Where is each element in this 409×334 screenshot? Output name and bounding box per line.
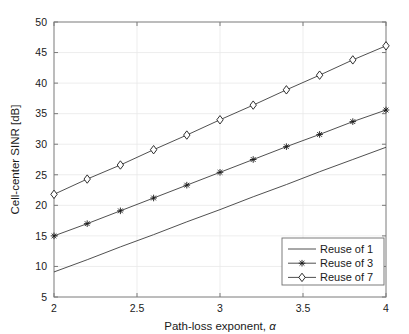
marker-asterisk <box>283 143 290 150</box>
legend-label: Reuse of 1 <box>320 243 373 255</box>
x-tick-label: 3.5 <box>296 302 311 314</box>
y-tick-label: 20 <box>35 199 47 211</box>
y-tick-label: 35 <box>35 107 47 119</box>
chart-canvas: 510152025303540455022.533.54 Path-loss e… <box>0 0 409 334</box>
axis-titles: Path-loss exponent, αCell-center SINR [d… <box>9 105 276 332</box>
marker-asterisk <box>250 156 257 163</box>
y-tick-label: 5 <box>41 291 47 303</box>
y-tick-label: 25 <box>35 169 47 181</box>
marker-asterisk <box>350 118 357 125</box>
y-tick-label: 40 <box>35 77 47 89</box>
x-tick-label: 3 <box>217 302 223 314</box>
marker-asterisk <box>84 220 91 227</box>
marker-diamond <box>250 101 256 109</box>
legend-label: Reuse of 7 <box>320 271 373 283</box>
y-tick-label: 15 <box>35 230 47 242</box>
marker-diamond <box>383 42 389 50</box>
marker-diamond <box>84 175 90 183</box>
y-axis-title: Cell-center SINR [dB] <box>9 105 21 215</box>
y-tick-label: 50 <box>35 16 47 28</box>
marker-asterisk <box>299 260 306 267</box>
marker-diamond <box>51 190 57 198</box>
x-tick-label: 4 <box>383 302 389 314</box>
marker-asterisk <box>184 182 191 189</box>
x-tick-label: 2 <box>51 302 57 314</box>
marker-asterisk <box>117 208 124 215</box>
marker-asterisk <box>217 169 224 176</box>
marker-diamond <box>316 71 322 79</box>
marker-diamond <box>150 146 156 154</box>
y-tick-label: 10 <box>35 260 47 272</box>
marker-diamond <box>217 116 223 124</box>
marker-asterisk <box>150 195 157 202</box>
x-tick-label: 2.5 <box>130 302 145 314</box>
y-tick-label: 30 <box>35 138 47 150</box>
marker-diamond <box>350 56 356 64</box>
x-axis-title: Path-loss exponent, α <box>164 320 276 332</box>
legend-label: Reuse of 3 <box>320 257 373 269</box>
marker-diamond <box>117 161 123 169</box>
marker-diamond <box>184 131 190 139</box>
marker-asterisk <box>383 107 390 114</box>
marker-diamond <box>283 86 289 94</box>
chart-figure: 510152025303540455022.533.54 Path-loss e… <box>0 0 409 334</box>
marker-asterisk <box>316 131 323 138</box>
chart-legend: Reuse of 1Reuse of 3Reuse of 7 <box>282 238 384 285</box>
y-tick-label: 45 <box>35 46 47 58</box>
marker-asterisk <box>51 233 58 240</box>
